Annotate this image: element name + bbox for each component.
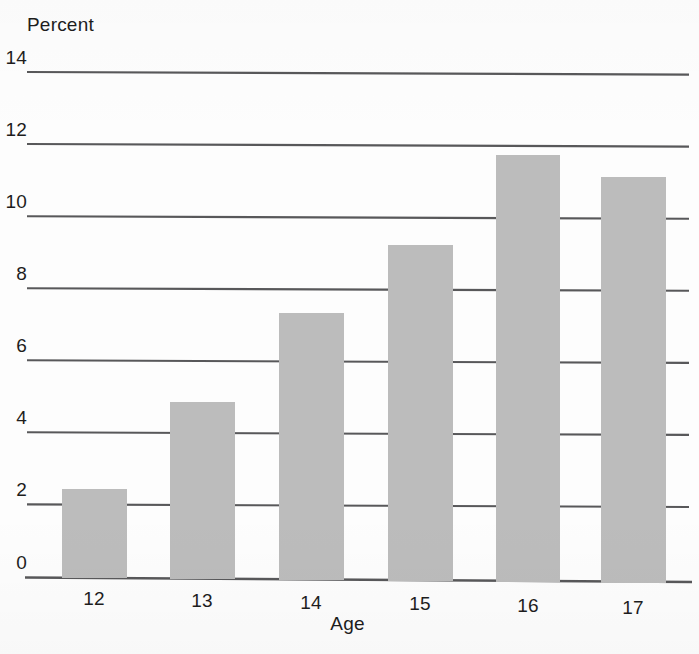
gridline-8	[27, 288, 689, 291]
bar-chart-figure: Percent 14 12 10 8 6 4 2 0 12 13 14 15 1…	[0, 0, 699, 654]
y-tick-label-8: 8	[0, 264, 27, 283]
y-tick-label-2: 2	[0, 480, 27, 499]
x-axis-baseline	[25, 578, 692, 583]
y-tick-label-10: 10	[0, 192, 27, 211]
x-tick-label-14: 14	[279, 593, 343, 612]
bar-age-16	[496, 155, 560, 582]
y-tick-label-14: 14	[0, 48, 27, 67]
bar-age-12	[62, 489, 127, 578]
gridline-10	[27, 216, 689, 219]
x-axis-title-text: Age	[330, 613, 364, 634]
y-tick-label-4: 4	[0, 408, 27, 427]
y-tick-label-0: 0	[0, 553, 27, 572]
bar-age-13	[170, 402, 235, 579]
x-axis-title: Age	[0, 613, 699, 634]
bar-age-17	[601, 177, 666, 583]
bar-age-14	[279, 313, 344, 580]
x-tick-label-13: 13	[170, 591, 234, 610]
gridline-14	[27, 72, 689, 75]
y-tick-label-12: 12	[0, 120, 27, 139]
gridline-12	[27, 144, 689, 147]
gridline-6	[27, 360, 689, 363]
x-tick-label-12: 12	[62, 589, 126, 608]
y-tick-label-6: 6	[0, 336, 27, 355]
bar-age-15	[388, 245, 453, 581]
x-tick-label-15: 15	[388, 594, 452, 613]
gridline-4	[27, 432, 689, 435]
